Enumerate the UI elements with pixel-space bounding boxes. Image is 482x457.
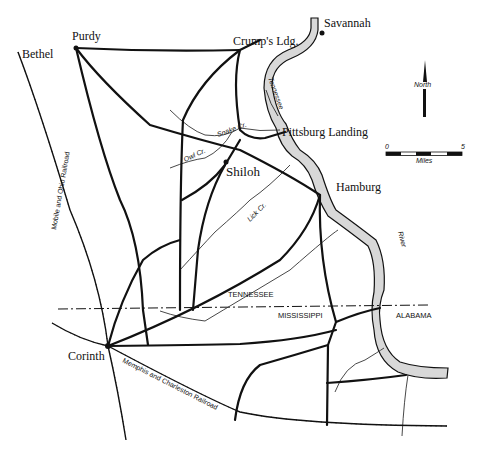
creek-southeast [335, 348, 384, 392]
label-memphis-charleston-railroad: Memphis and Charleston Railroad [121, 357, 219, 412]
mobile-ohio-railroad [18, 52, 126, 440]
label-north: North [414, 81, 431, 88]
label-owl-creek: Owl Cr. [182, 147, 206, 163]
scale-min: 0 [385, 143, 389, 150]
map-canvas: Purdy Bethel Crump's Ldg. Savannah Pitts… [0, 0, 482, 457]
tennessee-river [264, 18, 448, 378]
label-snake-creek: Snake Cr. [216, 121, 247, 138]
label-state-alabama: ALABAMA [396, 311, 431, 320]
label-pittsburg-landing: Pittsburg Landing [282, 125, 368, 139]
north-arrow: North [414, 60, 431, 117]
label-state-mississippi: MISSISSIPPI [278, 311, 323, 320]
label-hamburg: Hamburg [336, 180, 381, 194]
label-state-tennessee: TENNESSEE [228, 290, 273, 299]
label-shiloh: Shiloh [226, 164, 260, 179]
label-savannah: Savannah [324, 16, 371, 30]
label-crumps-landing: Crump's Ldg. [233, 34, 299, 48]
scale-max: 5 [461, 143, 465, 150]
scale-unit: Miles [416, 157, 433, 164]
savannah-marker [320, 31, 325, 36]
label-corinth: Corinth [68, 349, 105, 363]
shiloh-campaign-map: Purdy Bethel Crump's Ldg. Savannah Pitts… [0, 0, 482, 457]
label-purdy: Purdy [72, 29, 101, 43]
creek-east [402, 375, 408, 436]
label-lick-creek: Lick Cr. [246, 201, 268, 223]
scale-bar: 0 5 Miles [385, 143, 465, 164]
label-river: River [397, 230, 408, 248]
label-mobile-ohio-railroad: Mobile and Ohio Railroad [50, 151, 71, 230]
label-bethel: Bethel [22, 47, 54, 61]
purdy-marker [74, 46, 79, 51]
north-arrow-icon [423, 60, 427, 82]
corinth-marker [105, 343, 111, 349]
lick-creek [180, 165, 290, 270]
